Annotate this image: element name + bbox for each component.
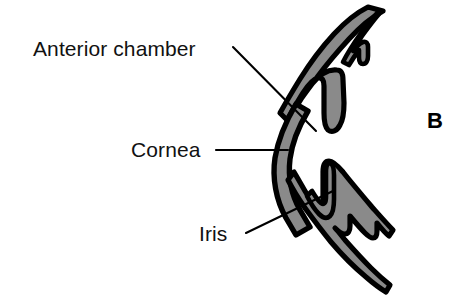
label-anterior-chamber: Anterior chamber [33,38,196,59]
panel-letter-label: B [427,110,443,132]
label-iris: Iris [199,223,227,244]
cornea-arc-shape [274,104,310,235]
figure-container: Anterior chamber Cornea Iris B [0,0,475,299]
label-cornea: Cornea [131,139,200,160]
